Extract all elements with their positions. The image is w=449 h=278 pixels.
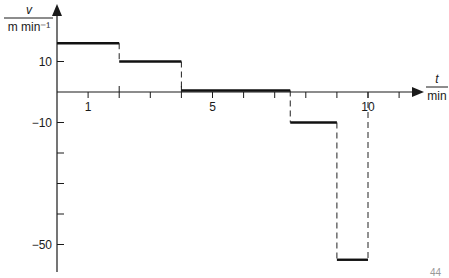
velocity-segments [57, 43, 368, 260]
y-label-numerator: v [26, 3, 33, 17]
y-tick-label: −10 [32, 116, 53, 130]
x-tick-label: 5 [209, 100, 216, 114]
y-label-denominator: m min⁻¹ [8, 20, 51, 34]
y-tick-label: −50 [32, 238, 53, 252]
x-label-numerator: t [435, 72, 439, 86]
dashed-connectors [119, 43, 368, 260]
y-axis-arrow-icon [52, 4, 62, 16]
y-ticks [57, 62, 64, 245]
x-tick-labels: 1510 [85, 100, 375, 114]
x-tick-label: 1 [85, 100, 92, 114]
x-axis-arrow-icon [412, 87, 424, 97]
page-number-fragment: 44 [430, 267, 441, 278]
y-tick-labels: 10−10−50 [32, 55, 53, 252]
y-tick-label: 10 [39, 55, 53, 69]
x-label-denominator: min [427, 89, 446, 103]
